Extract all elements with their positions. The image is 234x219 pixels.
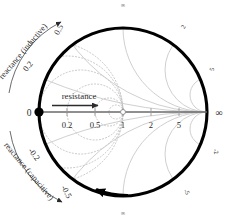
axis-tick-label-0: 0.2 [62,120,73,130]
capacitive-guide-arc [10,131,62,202]
origin-dot-marker [34,107,43,116]
arc-label-upper-right-1: 5 [208,67,216,72]
arc-label-upper-right-0: 2 [179,23,187,29]
arc-label-lower-right-0: -2 [212,148,220,155]
arc-label-top: ∞ [121,2,125,8]
smith-chart-canvas: 0 ∞ 0.2 0.5 1 2 5 resistance 0.2 0.5 rea… [0,0,234,219]
inductive-tick-label-0: 0.2 [21,60,35,74]
inductive-reactance-label: reactance (inductive) [0,22,49,81]
arc-label-lower-right-1: -5 [183,188,192,196]
axis-tick-label-1: 0.5 [90,120,101,130]
axis-tick-label-3: 2 [149,120,153,130]
inductive-tick-label-1: 0.5 [52,23,65,36]
axis-tick-label-2: 1 [121,120,125,130]
axis-tick-label-4: 5 [177,120,181,130]
capacitive-tick-label-1: -0.5 [59,184,73,200]
capacitive-tick-label-0: -0.2 [26,146,41,162]
smith-chart-figure: 0 ∞ 0.2 0.5 1 2 5 resistance 0.2 0.5 rea… [0,0,234,219]
resistance-direction-label: resistance [62,91,97,101]
axis-origin-label: 0 [27,108,32,118]
axis-infinity-label: ∞ [215,107,222,118]
arc-label-bottom: ∞ [121,210,125,216]
center-dot-marker [121,110,126,115]
